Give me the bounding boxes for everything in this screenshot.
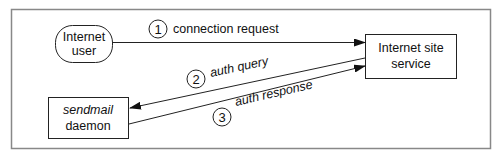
- node-internet-user-line2: user: [72, 44, 96, 58]
- step-1-number: 1: [154, 22, 161, 37]
- edge-auth-response: 3 auth response: [129, 66, 365, 126]
- edge-connection-request: 1 connection request: [112, 20, 365, 43]
- node-internet-user: Internet user: [56, 26, 113, 63]
- node-sendmail-daemon: sendmail daemon: [49, 98, 129, 139]
- auth-flow-diagram: Internet user Internet site service send…: [0, 0, 498, 157]
- node-internet-site-line1: Internet site: [378, 41, 443, 55]
- edge-2-label: auth query: [209, 54, 270, 80]
- step-2-number: 2: [192, 72, 199, 87]
- step-3-number: 3: [218, 110, 225, 125]
- edge-3-label: auth response: [234, 77, 314, 108]
- node-internet-site-service: Internet site service: [366, 35, 457, 79]
- node-sendmail-line1: sendmail: [63, 103, 114, 117]
- node-internet-user-line1: Internet: [63, 30, 106, 44]
- edge-1-label: connection request: [173, 22, 279, 36]
- node-internet-site-line2: service: [391, 57, 431, 71]
- node-sendmail-line2: daemon: [65, 119, 110, 133]
